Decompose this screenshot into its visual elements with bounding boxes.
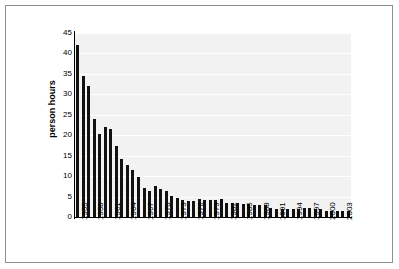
x-tick-label: 1997: [313, 202, 321, 220]
bar: [258, 205, 261, 217]
x-tick-label: 1955: [81, 202, 89, 220]
x-tick-label: 1979: [213, 202, 221, 220]
bar: [225, 203, 228, 217]
y-tick-label: 45: [52, 29, 72, 37]
bar: [87, 86, 90, 217]
bar: [341, 211, 344, 217]
x-tick-label: 2003: [346, 202, 354, 220]
y-tick-label: 0: [52, 213, 72, 221]
x-tick-label: 1976: [197, 202, 205, 220]
y-tick-label: 40: [52, 49, 72, 57]
x-tick-label: 1982: [230, 202, 238, 220]
y-tick-label: 5: [52, 193, 72, 201]
bar-series: [75, 33, 351, 217]
y-tick-label: 10: [52, 172, 72, 180]
y-tick-label: 20: [52, 131, 72, 139]
y-tick-label: 30: [52, 90, 72, 98]
x-tick-label: 1985: [246, 202, 254, 220]
x-tick-label: 1991: [279, 202, 287, 220]
x-tick-label: 1994: [296, 202, 304, 220]
bar: [109, 129, 112, 217]
x-tick-label: 1958: [97, 202, 105, 220]
y-axis-ticks: 454035302520151050: [50, 33, 72, 217]
x-tick-label: 1967: [147, 202, 155, 220]
bar: [308, 208, 311, 217]
x-tick-label: 1973: [180, 202, 188, 220]
x-tick-label: 1970: [164, 202, 172, 220]
x-tick-label: 1988: [263, 202, 271, 220]
x-tick-label: 1964: [130, 202, 138, 220]
y-tick-label: 15: [52, 152, 72, 160]
bar: [159, 189, 162, 217]
bar: [76, 45, 79, 217]
x-tick-label: 1961: [114, 202, 122, 220]
y-tick-label: 35: [52, 70, 72, 78]
bar: [82, 76, 85, 217]
bar: [192, 201, 195, 217]
chart-figure: person hours 454035302520151050 19551958…: [0, 0, 399, 269]
x-tick-label: 2000: [329, 202, 337, 220]
y-tick-label: 25: [52, 111, 72, 119]
x-axis-ticks: 1955195819611964196719701973197619791982…: [75, 218, 351, 266]
